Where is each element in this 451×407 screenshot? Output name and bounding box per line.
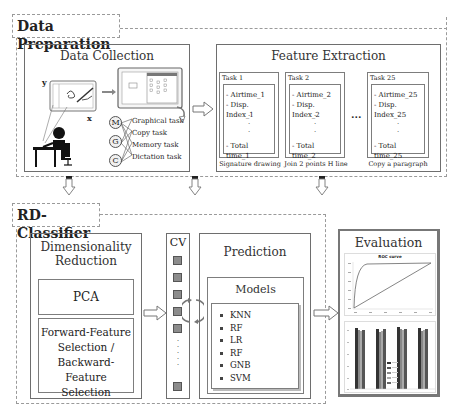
selection-line-1: Forward-Feature: [39, 325, 133, 340]
feature-extraction-panel: Feature Extraction Task 1 - Airtime_1 - …: [216, 44, 441, 172]
cv-fold-4: [173, 307, 182, 316]
feature-task-card-2: Task 2 - Airtime_2 - Disp. Index_2 ··· -…: [285, 72, 345, 158]
dimensionality-reduction-title: Dimensionality Reduction: [31, 240, 141, 268]
models-list: KNN RF LR RF GNB SVM: [218, 309, 298, 384]
models-box: Models KNN RF LR RF GNB SVM: [207, 277, 304, 394]
right-arrow-icon: [102, 89, 116, 95]
feature-vdots: ···: [224, 112, 274, 136]
cv-fold-last: [173, 382, 182, 391]
dimensionality-reduction-panel: Dimensionality Reduction PCA Forward-Fea…: [30, 233, 142, 399]
models-list-card: KNN RF LR RF GNB SVM: [211, 303, 299, 389]
feature-airtime: - Airtime_2: [292, 90, 331, 100]
hollow-right-arrow-icon: [313, 305, 339, 321]
model-knn: KNN: [218, 309, 298, 322]
task-caption-1: Signature drawing: [217, 160, 283, 168]
task-caption-2: Join 2 points H line: [283, 160, 349, 168]
roc-chart: ROC curve: [344, 253, 436, 316]
title-line-1: Dimensionality: [31, 240, 141, 254]
feature-task-card-25: Task 25 - Airtime_25 - Disp. Index_25 ··…: [367, 72, 429, 158]
task-ellipsis: ...: [351, 109, 361, 120]
task-name: Task 1: [222, 74, 243, 82]
data-collection-title: Data Collection: [25, 49, 189, 63]
hollow-right-arrow-icon: [143, 305, 167, 321]
bar-legend: [387, 362, 398, 384]
cv-fold-1: [173, 256, 182, 265]
feature-total-time: - Total time_1: [226, 141, 274, 161]
evaluation-panel: Evaluation ROC curve: [338, 229, 440, 397]
monitor-icon: [117, 67, 183, 109]
feature-airtime: - Airtime_1: [226, 90, 265, 100]
feature-list-box: - Airtime_1 - Disp. Index_1 ··· - Total …: [223, 84, 275, 154]
person-at-desk-icon: [29, 103, 87, 169]
feature-list-box: - Airtime_25 - Disp. Index_25 ··· - Tota…: [371, 84, 425, 154]
model-rf-2: RF: [218, 347, 298, 360]
task-memory: Memory task: [132, 139, 192, 151]
feature-list-box: - Airtime_2 - Disp. Index_2 ··· - Total …: [289, 84, 341, 154]
hollow-right-arrow-icon: [192, 101, 214, 117]
down-arrow-icon-middle: [188, 176, 202, 196]
task-name: Task 25: [370, 74, 395, 82]
data-preparation-topline: [120, 28, 447, 29]
feature-selection-box: Forward-Feature Selection / Backward-Fea…: [38, 318, 134, 393]
prediction-panel: Prediction Models KNN RF LR RF GNB SVM: [199, 233, 311, 399]
task-caption-25: Copy a paragraph: [363, 160, 433, 168]
cv-fold-5: [173, 324, 182, 333]
models-title: Models: [208, 283, 303, 296]
down-arrow-icon-left: [62, 176, 76, 196]
bar-chart-plot: [345, 322, 437, 394]
task-dictation: Dictation task: [132, 151, 192, 163]
cv-vdots: ·····: [167, 338, 189, 368]
data-preparation-label: Data Preparation: [12, 14, 120, 38]
feature-vdots: ···: [290, 112, 340, 136]
down-arrow-icon-right: [315, 176, 329, 196]
cv-fold-3: [173, 290, 182, 299]
selection-line-2: Selection /: [39, 340, 133, 355]
selection-line-3: Backward-Feature: [39, 355, 133, 385]
selection-line-4: Selection: [39, 385, 133, 400]
axis-x-label: x: [87, 113, 92, 123]
evaluation-title: Evaluation: [340, 235, 437, 250]
model-gnb: GNB: [218, 359, 298, 372]
pca-label: PCA: [73, 290, 99, 304]
roc-curve-plot: [345, 254, 437, 317]
data-collection-panel: Data Collection y x: [24, 44, 190, 172]
task-name: Task 2: [288, 74, 309, 82]
task-graphical: Graphical task: [132, 115, 192, 127]
model-lr: LR: [218, 334, 298, 347]
prediction-title: Prediction: [200, 245, 310, 259]
model-svm: SVM: [218, 372, 298, 385]
title-line-2: Reduction: [31, 254, 141, 268]
feature-total-time: - Total time_25: [374, 141, 424, 161]
axis-y-label: y: [42, 77, 47, 87]
model-rf: RF: [218, 322, 298, 335]
feature-airtime: - Airtime_25: [374, 90, 417, 100]
rd-classifier-label: RD-Classifier: [12, 203, 100, 227]
bar-chart: [344, 321, 436, 393]
task-copy: Copy task: [132, 127, 192, 139]
feature-vdots: ···: [372, 112, 424, 136]
feature-extraction-title: Feature Extraction: [217, 49, 440, 63]
pca-box: PCA: [38, 279, 134, 315]
rd-classifier-topline: [100, 214, 326, 215]
feature-task-card-1: Task 1 - Airtime_1 - Disp. Index_1 ··· -…: [219, 72, 279, 158]
cv-label: CV: [167, 236, 189, 249]
feature-total-time: - Total time_2: [292, 141, 340, 161]
cv-fold-2: [173, 273, 182, 282]
task-list: Graphical task Copy task Memory task Dic…: [132, 115, 192, 163]
